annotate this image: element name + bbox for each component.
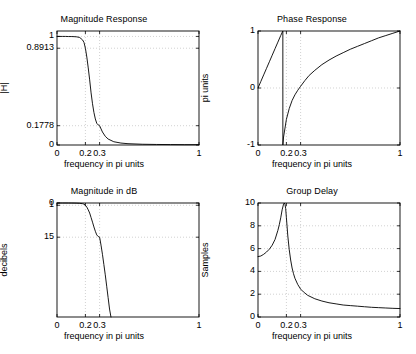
y-tick-label: 15	[13, 231, 54, 241]
y-tick-label: 0	[13, 139, 54, 149]
x-tick-label: 0	[244, 148, 272, 158]
y-axis-label: |H|	[0, 82, 9, 93]
x-tick-label: 1	[386, 148, 414, 158]
x-tick-label: 0	[43, 148, 71, 158]
y-tick-label: 2	[214, 288, 255, 298]
plot-magnitude-response: Magnitude Response frequency in pi units…	[0, 14, 208, 176]
x-tick-label: 1	[386, 320, 414, 330]
matlab-figure-window: Magnitude Response frequency in pi units…	[0, 0, 416, 354]
y-tick-label: 6	[214, 243, 255, 253]
x-tick-label: 0.3	[287, 320, 315, 330]
y-tick-label: 0	[214, 311, 255, 321]
y-axis-label: pi units	[200, 74, 210, 103]
x-axis-label: frequency in pi units	[208, 159, 416, 169]
y-tick-label: 1	[13, 199, 54, 209]
x-tick-label: 0.3	[86, 320, 114, 330]
y-axis-label: Samples	[200, 242, 210, 277]
x-tick-label: 0	[244, 320, 272, 330]
y-tick-label: 0	[214, 82, 255, 92]
x-axis-label: frequency in pi units	[0, 331, 208, 341]
x-tick-label: 0.3	[287, 148, 315, 158]
y-tick-label: -1	[214, 139, 255, 149]
x-axis-label: frequency in pi units	[0, 159, 208, 169]
y-tick-label: 0.8913	[13, 42, 54, 52]
plot-group-delay: Group Delay frequency in pi units Sample…	[208, 186, 416, 348]
x-tick-label: 0	[43, 320, 71, 330]
y-tick-label: 0.1778	[13, 120, 54, 130]
y-tick-label: 8	[214, 220, 255, 230]
x-tick-label: 0.3	[86, 148, 114, 158]
plot-magnitude-db: Magnitude in dB frequency in pi units de…	[0, 186, 208, 348]
y-tick-label: 1	[214, 25, 255, 35]
x-axis-label: frequency in pi units	[208, 331, 416, 341]
y-tick-label: 4	[214, 265, 255, 275]
y-tick-label: 1	[13, 30, 54, 40]
plot-phase-response: Phase Response frequency in pi units pi …	[208, 14, 416, 176]
y-axis-label: decibels	[0, 243, 9, 276]
y-tick-label: 10	[214, 197, 255, 207]
